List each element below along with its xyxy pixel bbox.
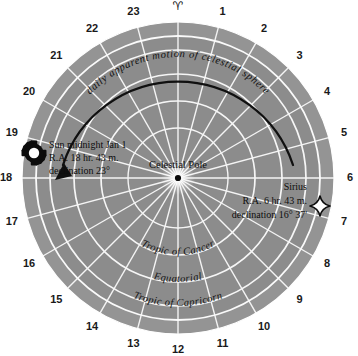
celestial-sphere-diagram: daily apparent motion of celestial spher… (0, 0, 358, 356)
hour-label-16: 16 (23, 257, 35, 269)
hour-label-6: 6 (347, 171, 353, 183)
sirius-line-2: R.A. 6 hr. 43 m. (243, 195, 307, 206)
pole-dot (175, 175, 181, 181)
hour-label-4: 4 (324, 85, 331, 97)
hour-label-21: 21 (50, 49, 62, 61)
hour-label-18: 18 (0, 171, 12, 183)
celestial-pole-label: Celestial Pole (149, 159, 207, 170)
hour-label-14: 14 (86, 320, 99, 332)
vernal-equinox-symbol: ♈ (173, 0, 184, 13)
sirius-line-3: declination 16° 37' (232, 209, 307, 220)
hour-label-1: 1 (219, 5, 225, 17)
hour-label-20: 20 (23, 85, 35, 97)
hour-label-2: 2 (261, 22, 267, 34)
hour-label-22: 22 (86, 22, 98, 34)
hour-label-12: 12 (172, 343, 184, 355)
hour-label-10: 10 (258, 320, 270, 332)
sirius-line-1: Sirius (284, 181, 307, 192)
hour-label-13: 13 (127, 337, 139, 349)
sun-line-2: R.A. 18 hr. 43 m. (49, 152, 118, 163)
hour-label-3: 3 (297, 49, 303, 61)
hour-label-15: 15 (50, 293, 62, 305)
hour-label-23: 23 (127, 5, 139, 17)
hour-label-17: 17 (6, 215, 18, 227)
sun-line-3: declination 23° (49, 165, 110, 176)
celestial-chart-svg: daily apparent motion of celestial spher… (0, 0, 358, 356)
hour-label-8: 8 (324, 257, 330, 269)
hour-label-7: 7 (341, 215, 347, 227)
hour-label-19: 19 (6, 126, 18, 138)
hour-label-11: 11 (217, 337, 229, 349)
hour-label-9: 9 (297, 293, 303, 305)
sun-line-1: Sun midnight Jan 1 (49, 139, 127, 150)
hour-label-5: 5 (341, 126, 347, 138)
